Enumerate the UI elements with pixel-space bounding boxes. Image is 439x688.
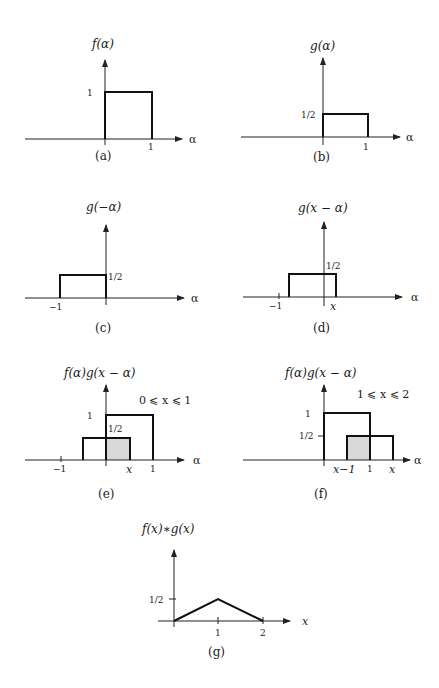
y-label: 1: [87, 411, 93, 421]
y-label: 1/2: [108, 424, 122, 434]
function-curve: [289, 274, 336, 297]
function-curve: [323, 114, 368, 137]
x-label: x: [126, 463, 133, 476]
panel-caption: (e): [98, 487, 114, 501]
panel-caption: (g): [208, 645, 225, 659]
axis-label: α: [411, 291, 419, 304]
panel-title: f(α)g(x − α): [63, 366, 136, 380]
y-label: 1/2: [299, 431, 313, 441]
condition-label: 0 ⩽ x ⩽ 1: [139, 394, 191, 407]
axis-label: α: [414, 454, 422, 467]
panel-caption: (d): [313, 321, 330, 335]
x-label: 1: [363, 142, 369, 152]
x-label: x: [330, 300, 337, 313]
overlap-shading: [106, 438, 130, 460]
x-label: 1: [150, 464, 156, 474]
y-label: 1/2: [326, 261, 340, 271]
panel-g: f(x)∗g(x) 1/2 1 2 x (g): [141, 522, 309, 659]
condition-label: 1 ⩽ x ⩽ 2: [357, 388, 409, 401]
x-label: x: [389, 463, 396, 476]
panel-title: f(α): [91, 37, 114, 51]
x-label: −1: [49, 302, 62, 312]
axis-label: α: [189, 133, 197, 146]
x-label: 2: [260, 628, 266, 638]
panel-title: g(x − α): [298, 201, 348, 215]
panel-a: f(α) 1 1 α (a): [25, 37, 197, 163]
x-label: 1: [215, 628, 221, 638]
x-label: x−1: [333, 463, 355, 476]
panel-title: f(α)g(x − α): [284, 366, 357, 380]
x-label: 1: [367, 464, 373, 474]
panel-caption: (a): [95, 149, 112, 163]
y-label: 1: [305, 409, 311, 419]
panel-c: g(−α) 1/2 −1 α (c): [25, 200, 199, 335]
y-label: 1: [87, 88, 93, 98]
panel-d: g(x − α) 1/2 −1 x α (d): [243, 201, 419, 335]
panel-title: g(−α): [86, 200, 122, 214]
panel-caption: (c): [95, 321, 111, 335]
y-label: 1/2: [149, 595, 163, 605]
x-label: −1: [53, 464, 66, 474]
panel-title: f(x)∗g(x): [141, 522, 195, 536]
axis-label: x: [302, 615, 309, 628]
panel-caption: (b): [313, 150, 330, 164]
panel-e: f(α)g(x − α) 0 ⩽ x ⩽ 1 1 1/2 −1 x 1 α (e…: [25, 366, 201, 501]
y-label: 1/2: [108, 272, 122, 282]
axis-label: α: [191, 292, 199, 305]
axis-label: α: [406, 131, 414, 144]
axis-label: α: [193, 454, 201, 467]
panel-b: g(α) 1/2 1 α (b): [241, 39, 414, 164]
overlap-shading: [347, 436, 370, 460]
x-label: 1: [148, 142, 154, 152]
panel-caption: (f): [314, 487, 328, 501]
panel-title: g(α): [310, 39, 335, 53]
panel-f: f(α)g(x − α) 1 ⩽ x ⩽ 2 1 1/2 x−1 1 x α (…: [243, 366, 422, 501]
function-curve: [60, 275, 106, 298]
x-label: −1: [269, 301, 282, 311]
function-curve: [105, 92, 152, 139]
convolution-figure: f(α) 1 1 α (a) g(α) 1/2 1 α (b) g(−α) 1/…: [0, 0, 439, 688]
y-label: 1/2: [301, 110, 315, 120]
